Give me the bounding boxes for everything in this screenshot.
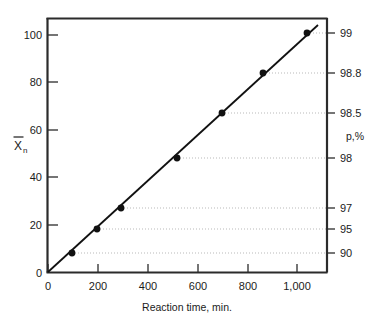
x-label-200: 200: [89, 280, 107, 292]
y-label-0: 0: [36, 267, 42, 279]
y-label-80: 80: [30, 76, 42, 88]
data-point: [219, 110, 226, 117]
data-point: [118, 205, 125, 212]
y-axis-right-title: p,%: [346, 130, 364, 142]
x-label-1000: 1,000: [283, 280, 311, 292]
y-right-label-98-5: 98.5: [340, 107, 361, 119]
y-right-label-95: 95: [340, 223, 352, 235]
data-point: [69, 250, 76, 257]
x-label-0: 0: [45, 280, 51, 292]
y-label-60: 60: [30, 124, 42, 136]
x-axis-title: Reaction time, min.: [142, 301, 232, 313]
data-point: [304, 30, 311, 37]
y-right-label-97: 97: [340, 202, 352, 214]
y-right-label-98-8: 98.8: [340, 67, 361, 79]
data-point: [260, 70, 267, 77]
y-label-20: 20: [30, 219, 42, 231]
y-right-label-90: 90: [340, 247, 352, 259]
y-axis-left-symbol: X: [14, 139, 22, 153]
y-axis-left-subscript: n: [23, 146, 27, 155]
x-label-400: 400: [139, 280, 157, 292]
y-label-40: 40: [30, 171, 42, 183]
data-point: [94, 226, 101, 233]
x-label-800: 800: [239, 280, 257, 292]
y-right-label-99: 99: [340, 27, 352, 39]
y-label-100: 100: [24, 29, 42, 41]
x-label-600: 600: [189, 280, 207, 292]
y-right-label-98: 98: [340, 152, 352, 164]
data-point: [174, 155, 181, 162]
chart-svg: 100 80 60 40 20 0 X n 99 98.8 98.5: [0, 0, 390, 320]
chart-figure: 100 80 60 40 20 0 X n 99 98.8 98.5: [0, 0, 390, 320]
